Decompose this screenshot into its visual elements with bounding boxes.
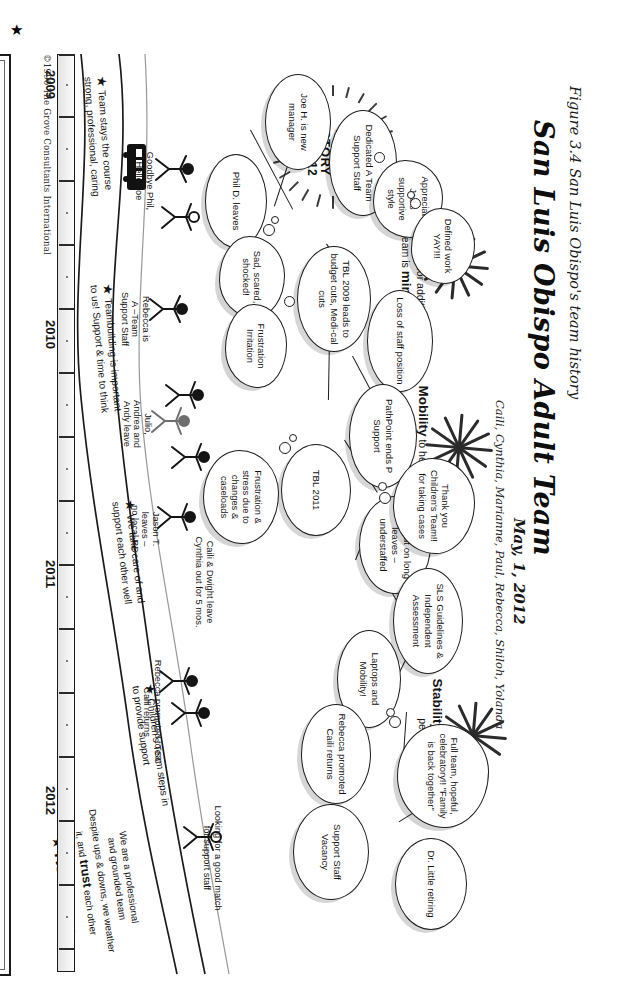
cloud-tail-dot	[386, 708, 395, 717]
dateline-tick	[59, 436, 75, 438]
dateline-tick	[59, 116, 75, 118]
dateline-tick	[59, 692, 75, 694]
dateline-tick	[59, 372, 75, 374]
team-history-poster: San Luis Obispo Adult Team May, 1, 2012 …	[44, 48, 567, 978]
cloud-label: Thank you Children's Team!! for taking c…	[417, 466, 451, 546]
dateline-tick	[59, 308, 75, 310]
cloud-label: Frustration Irritation	[245, 312, 268, 380]
cloud-tail-dot	[279, 442, 291, 454]
dateline-tick	[59, 756, 75, 758]
resilience-emph: trust	[76, 859, 94, 888]
dateline-dot	[66, 596, 68, 598]
cloud-label: Full team, hopeful, celebratory!! "Famil…	[426, 732, 460, 820]
page-title: San Luis Obispo Adult Team	[528, 120, 559, 556]
cloud-tail-dot	[379, 492, 391, 504]
dateline-tick	[59, 500, 75, 502]
event-tbl-2011[interactable]: TBL 2011	[281, 444, 351, 536]
event-label: Laptops and Mobility!	[357, 637, 380, 721]
cloud-tail-dot	[263, 224, 275, 236]
cloud-label: Sad, scared, shocked!	[241, 244, 264, 310]
cloud-label: Defined work YAY!!!	[432, 216, 455, 276]
dateline-dot	[66, 276, 68, 278]
dateline-tick	[59, 948, 75, 950]
learn-label: Team stays the course strong, profession…	[82, 76, 114, 197]
event-label: PathPoint ends P Support	[371, 391, 394, 481]
figure-caption: Figure 3.4 San Luis Obispo's team histor…	[567, 86, 583, 966]
event-support-vacancy[interactable]: Support Staff Vacancy	[293, 804, 369, 900]
event-tbl-2009[interactable]: TBL 2009 leads to budget cuts, Medi-cal …	[297, 246, 371, 352]
event-label: Joe H. is new manager	[286, 81, 309, 163]
cloud-tail-dot	[284, 296, 295, 307]
goal-bold-mobility: Mobility	[416, 385, 431, 436]
cloud-full-team[interactable]: Full team, hopeful, celebratory!! "Famil…	[397, 724, 489, 828]
cloud-tail-dot	[378, 482, 387, 491]
key-legend-box: KEY GOALS/ DREAMS & ASPIRATIONS HIGHS &	[0, 54, 11, 976]
dateline-rail: 2009 2010 2011 2012	[49, 48, 79, 978]
event-joe-h[interactable]: Joe H. is new manager	[265, 74, 331, 170]
cloud-tail-dot	[407, 191, 415, 199]
event-label: Rebecca promoted Caili returns	[324, 711, 347, 797]
dateline-dot	[66, 468, 68, 470]
dateline-dot	[66, 340, 68, 342]
dateline-bar	[57, 54, 75, 972]
dateline-tick	[59, 244, 75, 246]
event-loss-of-staff[interactable]: Loss of staff position	[367, 290, 433, 392]
event-label: TBL 2011	[310, 470, 322, 511]
dateline-tick	[59, 564, 75, 566]
dateline-dot	[66, 852, 68, 854]
event-rebecca-promoted[interactable]: Rebecca promoted Caili returns	[301, 704, 371, 804]
cloud-tail-dot	[271, 216, 279, 224]
dateline-dot	[66, 916, 68, 918]
dateline-tick	[59, 820, 75, 822]
resilience-mid-line-3: each other	[82, 889, 99, 935]
event-label: SLS Guidelines & Independent Assessment	[410, 575, 445, 667]
cloud-tail-dot	[374, 152, 385, 163]
rotated-poster-wrapper: San Luis Obispo Adult Team May, 1, 2012 …	[44, 48, 567, 978]
cloud-defined-work[interactable]: Defined work YAY!!!	[411, 208, 475, 284]
dateline-dot	[66, 724, 68, 726]
dateline-dot	[66, 532, 68, 534]
cloud-tail-dot	[410, 198, 421, 209]
dateline-dot	[66, 212, 68, 214]
year-label-2011: 2011	[43, 560, 58, 588]
event-label: Loss of staff position	[394, 297, 406, 384]
star-icon: ★	[101, 283, 117, 296]
event-label: Dedicated A Team Support Staff	[351, 117, 374, 209]
star-icon: ★	[122, 499, 138, 513]
cloud-tail-dot	[289, 434, 297, 442]
dateline-dot	[66, 788, 68, 790]
event-label: Dr. Little retiring	[425, 850, 437, 917]
dateline-tick	[59, 884, 75, 886]
star-icon: ★	[94, 75, 110, 88]
dateline-tick	[59, 54, 75, 56]
cloud-tail-dot	[389, 716, 401, 728]
page-star-marker: ★	[10, 22, 23, 37]
key-inner-border	[0, 60, 5, 970]
cloud-thank-you-childrens[interactable]: Thank you Children's Team!! for taking c…	[393, 458, 475, 554]
dateline-dot	[66, 84, 68, 86]
poster-date: May, 1, 2012	[510, 518, 527, 625]
star-icon: ★	[142, 683, 159, 697]
dateline-dot	[66, 660, 68, 662]
year-label-2012: 2012	[43, 786, 58, 815]
event-label: Support Staff Vacancy	[319, 811, 342, 893]
event-dr-little[interactable]: Dr. Little retiring	[395, 838, 467, 930]
year-label-2010: 2010	[43, 320, 58, 349]
event-sls-guidelines[interactable]: SLS Guidelines & Independent Assessment	[393, 568, 463, 674]
dateline-tick	[59, 180, 75, 182]
event-label: TBL 2009 leads to budget cuts, Medi-cal …	[316, 253, 351, 345]
dateline-dot	[66, 148, 68, 150]
dateline-tick	[59, 628, 75, 630]
dateline-dot	[66, 404, 68, 406]
copyright-notice: ©1996 The Grove Consultants Internationa…	[42, 54, 52, 255]
